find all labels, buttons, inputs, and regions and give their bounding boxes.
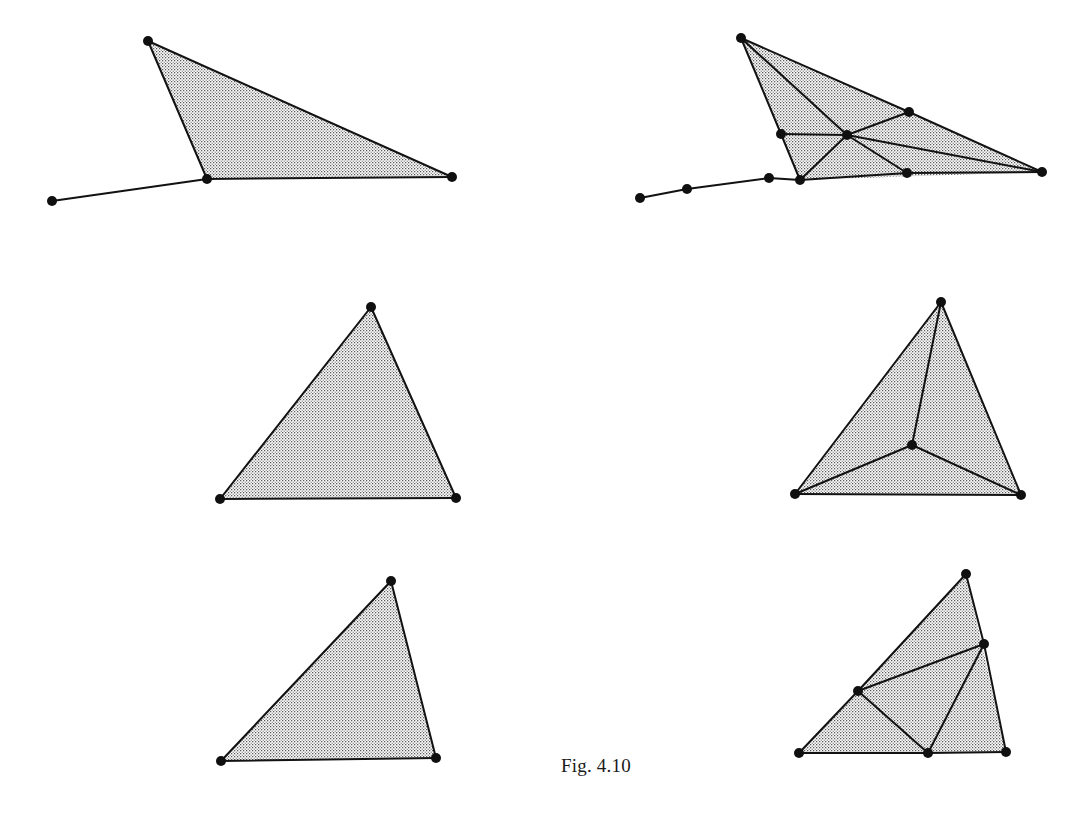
mesh-vertex: [790, 489, 800, 499]
mesh-vertex: [904, 107, 914, 117]
mesh-edge: [795, 494, 1021, 495]
mesh-vertex: [635, 193, 645, 203]
top-right-refined-triangle: [635, 33, 1047, 203]
mesh-vertex: [907, 440, 917, 450]
mesh-vertex: [936, 297, 946, 307]
mesh-edge: [220, 498, 456, 499]
mesh-vertex: [143, 36, 153, 46]
mesh-vertex: [386, 576, 396, 586]
mesh-vertex: [202, 174, 212, 184]
mesh-vertex: [736, 33, 746, 43]
mesh-vertex: [923, 748, 933, 758]
bottom-left-coarse-triangle: [216, 576, 441, 766]
mesh-vertex: [979, 639, 989, 649]
mesh-vertex: [682, 184, 692, 194]
mesh-edge: [687, 178, 769, 189]
mesh-vertex: [902, 168, 912, 178]
mesh-vertex: [795, 175, 805, 185]
mesh-vertex: [764, 173, 774, 183]
mesh-vertex: [776, 129, 786, 139]
mesh-face: [221, 581, 436, 761]
figure-caption: Fig. 4.10: [561, 755, 631, 777]
figure-container: Fig. 4.10: [0, 0, 1075, 816]
top-left-coarse-triangle: [47, 36, 457, 206]
mesh-vertex: [215, 494, 225, 504]
mesh-edge: [52, 179, 207, 201]
mesh-edge: [907, 172, 1042, 173]
middle-left-coarse-triangle: [215, 302, 461, 504]
middle-right-refined-triangle: [790, 297, 1026, 500]
mesh-edge: [640, 189, 687, 198]
mesh-vertex: [853, 686, 863, 696]
mesh-refinement-figure: [0, 0, 1075, 816]
mesh-vertex: [1001, 747, 1011, 757]
mesh-vertex: [431, 753, 441, 763]
mesh-face: [220, 307, 456, 499]
mesh-edge: [928, 752, 1006, 753]
mesh-vertex: [216, 756, 226, 766]
mesh-vertex: [366, 302, 376, 312]
bottom-right-refined-triangle: [794, 569, 1011, 758]
mesh-vertex: [47, 196, 57, 206]
mesh-vertex: [1037, 167, 1047, 177]
mesh-vertex: [794, 748, 804, 758]
mesh-face: [741, 38, 1042, 180]
mesh-vertex: [447, 172, 457, 182]
mesh-vertex: [1016, 490, 1026, 500]
mesh-face: [795, 302, 1021, 495]
mesh-vertex: [961, 569, 971, 579]
mesh-edge: [781, 134, 847, 135]
mesh-vertex: [451, 493, 461, 503]
mesh-vertex: [842, 130, 852, 140]
